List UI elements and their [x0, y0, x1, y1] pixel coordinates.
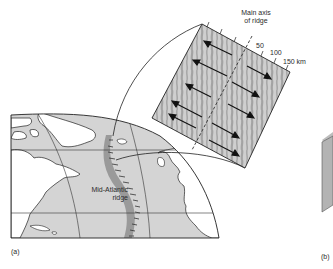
british-isles [157, 157, 164, 166]
panel-b-block [322, 132, 333, 212]
scale-label-150km: 150 km [283, 58, 306, 66]
scale-label-100: 100 [270, 49, 282, 57]
main-axis-label: Main axis of ridge [229, 9, 283, 25]
ridge-label-line1: Mid-Atlantic [78, 186, 128, 194]
main-axis-label-line2: of ridge [229, 17, 283, 25]
ridge-inset-block [152, 22, 290, 168]
panel-b-label: (b) [321, 253, 330, 261]
ridge-label-line2: ridge [78, 194, 128, 202]
main-axis-label-line1: Main axis [229, 9, 283, 17]
scale-label-50: 50 [256, 42, 264, 50]
ridge-label: Mid-Atlantic ridge [78, 186, 128, 202]
mid-atlantic-ridge-diagram [0, 0, 333, 269]
panel-a-label: (a) [11, 248, 20, 256]
